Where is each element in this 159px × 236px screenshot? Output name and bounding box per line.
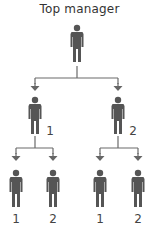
arrow-down-icon [114, 83, 123, 91]
level2-label: 2 [46, 212, 60, 226]
person-icon-level2-1-2 [47, 170, 60, 207]
person-icon-level2-1-1 [10, 170, 23, 207]
level2-label: 1 [9, 212, 23, 226]
arrow-down-icon [96, 153, 105, 161]
person-icon-root [71, 25, 84, 62]
level2-label: 2 [131, 212, 145, 226]
level1-label-1: 1 [43, 124, 57, 138]
person-icon-level1-1 [29, 97, 42, 134]
arrow-down-icon [31, 83, 40, 91]
person-icon-level2-2-2 [132, 170, 145, 207]
arrow-down-icon [49, 153, 58, 161]
arrow-down-icon [12, 153, 21, 161]
person-icon-level2-2-1 [94, 170, 107, 207]
person-icon-level1-2 [112, 97, 125, 134]
level1-label-2: 2 [126, 124, 140, 138]
arrow-down-icon [134, 153, 143, 161]
org-chart [0, 0, 159, 236]
level2-label: 1 [93, 212, 107, 226]
